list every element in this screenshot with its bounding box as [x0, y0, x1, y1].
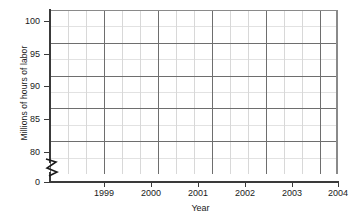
- plot-frame-right: [336, 10, 338, 174]
- x-tick-label-2003: 2003: [269, 188, 315, 198]
- y-axis-title: Millions of hours of labor: [19, 23, 29, 163]
- y-tick-mark-85: [44, 119, 50, 120]
- y-tick-label-0: 0: [0, 178, 40, 187]
- y-tick-mark-80: [44, 152, 50, 153]
- y-axis-break-icon: [44, 157, 62, 177]
- major-gridlines: [50, 10, 338, 174]
- x-tick-mark-1999: [104, 183, 105, 187]
- y-tick-mark-100: [44, 21, 50, 22]
- x-tick-label-2002: 2002: [222, 188, 268, 198]
- x-tick-label-2000: 2000: [128, 188, 174, 198]
- x-tick-mark-2003: [292, 183, 293, 187]
- x-tick-label-1999: 1999: [81, 188, 127, 198]
- y-tick-mark-95: [44, 54, 50, 55]
- plot-frame-top: [50, 10, 338, 11]
- x-tick-mark-2001: [198, 183, 199, 187]
- chart-figure: 100959085800 199920002001200220032004 Mi…: [0, 0, 359, 223]
- x-tick-label-2004: 2004: [315, 188, 359, 198]
- y-tick-mark-0: [44, 182, 50, 183]
- x-tick-label-2001: 2001: [175, 188, 221, 198]
- x-tick-mark-2000: [151, 183, 152, 187]
- minor-gridlines: [50, 10, 338, 174]
- plot-area: [50, 10, 338, 174]
- x-axis-line: [49, 181, 339, 183]
- y-tick-mark-90: [44, 86, 50, 87]
- x-tick-mark-2004: [338, 183, 339, 187]
- x-tick-mark-2002: [245, 183, 246, 187]
- x-axis-title: Year: [0, 203, 359, 213]
